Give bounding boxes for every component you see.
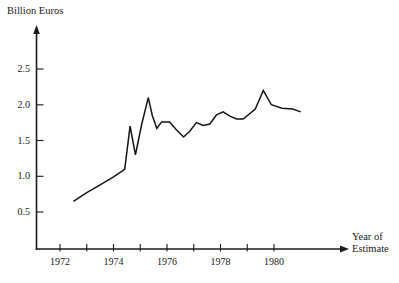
y-axis-ticks [37,69,44,212]
y-axis-title: Billion Euros [7,5,63,16]
y-tick-label-0: 0.5 [8,206,30,217]
x-tick-label-1972: 1972 [45,256,75,267]
x-tick-label-1974: 1974 [99,256,129,267]
y-tick-label-3: 2.0 [8,99,30,110]
y-tick-label-1: 1.0 [8,170,30,181]
x-axis-ticks [60,244,274,252]
y-tick-label-2: 1.5 [8,135,30,146]
x-tick-label-1980: 1980 [259,256,289,267]
chart-container: Billion Euros Year of Estimate 0.5 1.0 1… [0,0,399,283]
x-axis-title-line2: Estimate [352,243,389,255]
data-series-line [73,90,300,201]
x-axis-title-line1: Year of [352,231,389,243]
line-chart-plot [0,0,399,283]
x-axis-title: Year of Estimate [352,231,389,255]
x-tick-label-1976: 1976 [152,256,182,267]
x-axis-arrow-icon [340,246,349,253]
x-tick-label-1978: 1978 [206,256,236,267]
y-axis-arrow-icon [33,25,40,34]
y-tick-label-4: 2.5 [8,63,30,74]
